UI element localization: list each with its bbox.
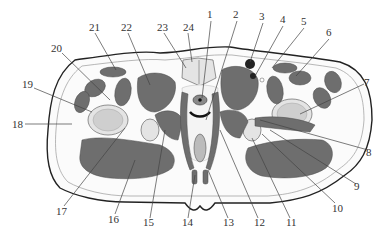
- label-20: 20: [51, 42, 63, 54]
- label-1: 1: [207, 8, 213, 20]
- rectum: [194, 134, 206, 162]
- label-24: 24: [183, 21, 195, 33]
- femoral-head-left-marrow: [93, 109, 123, 131]
- label-16: 16: [108, 213, 120, 225]
- label-22: 22: [121, 21, 132, 33]
- label-3: 3: [259, 10, 265, 22]
- rectus-femoris-right: [289, 71, 311, 85]
- sartorius-left: [100, 67, 126, 77]
- label-17: 17: [56, 205, 68, 217]
- label-4: 4: [280, 13, 286, 25]
- label-10: 10: [332, 202, 344, 214]
- ischium-left: [141, 119, 159, 141]
- label-15: 15: [143, 216, 155, 228]
- label-5: 5: [301, 15, 307, 27]
- label-11: 11: [286, 216, 297, 228]
- label-18: 18: [12, 118, 24, 130]
- label-7: 7: [364, 76, 370, 88]
- urethra-lumen: [198, 98, 202, 102]
- label-2: 2: [233, 8, 239, 20]
- femoral-artery-right: [245, 59, 255, 69]
- label-8: 8: [366, 146, 372, 158]
- pelvis-cross-section-diagram: 1 2 3 4 5 6 7 8 9 10 11 12 13 14 15 16 1…: [0, 0, 390, 241]
- sartorius-right: [273, 63, 297, 73]
- label-14: 14: [182, 216, 194, 228]
- label-9: 9: [354, 180, 360, 192]
- label-23: 23: [157, 21, 169, 33]
- vessel-small: [260, 78, 264, 82]
- label-21: 21: [89, 21, 100, 33]
- label-6: 6: [326, 26, 332, 38]
- sphincter-right: [203, 170, 208, 184]
- label-19: 19: [22, 78, 34, 90]
- label-13: 13: [223, 216, 235, 228]
- label-12: 12: [254, 216, 265, 228]
